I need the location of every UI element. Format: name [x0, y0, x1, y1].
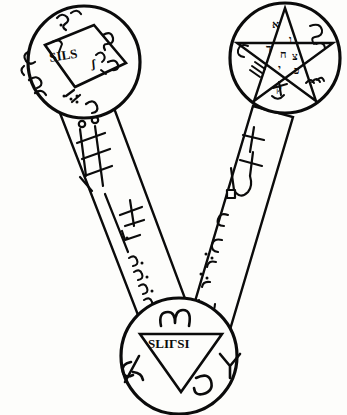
left-band-dot	[125, 236, 128, 239]
svg-text:כ: כ	[294, 64, 299, 76]
svg-text:ד: ד	[266, 42, 271, 54]
square-disc: SILS ʃ	[22, 6, 141, 118]
svg-text:ו: ו	[289, 33, 292, 45]
triangle-inscription: SLIΓSI	[148, 336, 190, 351]
talisman-diagram: SILS ʃ	[0, 0, 347, 415]
diagram-canvas: SILS ʃ	[0, 0, 347, 415]
svg-text:צ: צ	[292, 50, 298, 62]
triangle-disc: SLIΓSI	[121, 298, 240, 414]
svg-text:א: א	[272, 18, 279, 30]
pentagram-disc: א ו ד ח צ י כ ק	[230, 3, 340, 113]
svg-text:ח: ח	[280, 48, 287, 60]
square-disc-outline	[28, 6, 140, 118]
svg-text:י: י	[278, 62, 281, 74]
